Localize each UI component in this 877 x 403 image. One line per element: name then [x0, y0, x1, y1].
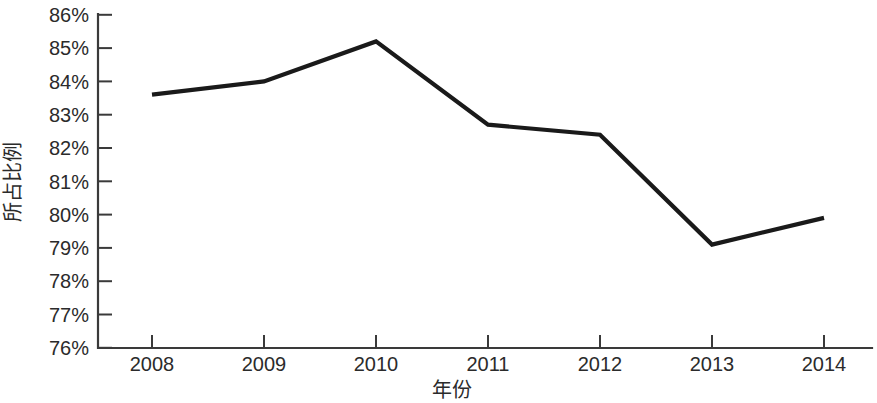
x-tick-label: 2012 — [578, 353, 623, 375]
y-tick-label: 81% — [49, 171, 89, 193]
y-tick-label: 83% — [49, 104, 89, 126]
y-tick-label: 80% — [49, 204, 89, 226]
y-tick-label: 85% — [49, 37, 89, 59]
y-tick-label: 78% — [49, 270, 89, 292]
chart-background — [0, 0, 877, 403]
y-tick-label: 84% — [49, 71, 89, 93]
y-tick-label: 76% — [49, 337, 89, 359]
x-tick-label: 2014 — [802, 353, 847, 375]
x-tick-label: 2010 — [354, 353, 399, 375]
y-axis-title: 所占比例 — [2, 142, 24, 222]
line-chart-figure: 所占比例 年份 86% 85% 84% 83% 82% 81% 8 — [0, 0, 877, 403]
x-tick-label: 2011 — [466, 353, 509, 375]
y-tick-labels: 86% 85% 84% 83% 82% 81% 80% 79% 78% 77% … — [49, 4, 89, 359]
chart-canvas: 所占比例 年份 86% 85% 84% 83% 82% 81% 8 — [0, 0, 877, 403]
y-tick-label: 79% — [49, 237, 89, 259]
x-tick-label: 2008 — [130, 353, 175, 375]
x-tick-label: 2013 — [690, 353, 735, 375]
y-tick-label: 82% — [49, 137, 89, 159]
y-tick-label: 77% — [49, 304, 89, 326]
x-axis-title: 年份 — [432, 379, 472, 401]
x-tick-label: 2009 — [242, 353, 287, 375]
y-tick-label: 86% — [49, 4, 89, 26]
